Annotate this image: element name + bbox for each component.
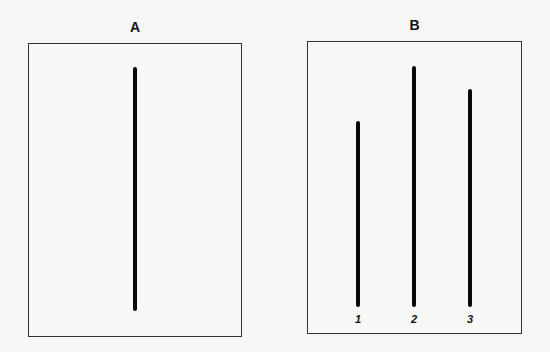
line-b-1 xyxy=(356,121,360,307)
line-label-3: 3 xyxy=(467,313,473,325)
line-a xyxy=(133,67,137,311)
panel-title-b: B xyxy=(409,17,419,33)
line-label-1: 1 xyxy=(355,313,361,325)
line-b-3 xyxy=(468,89,472,307)
line-b-2 xyxy=(412,66,416,307)
panel-title-a: A xyxy=(130,19,140,35)
line-label-2: 2 xyxy=(411,313,417,325)
